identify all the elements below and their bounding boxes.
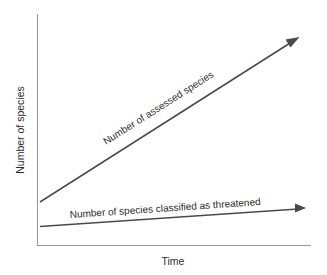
assessed-species-arrow-icon [286,37,300,48]
x-axis-title: Time [162,255,185,267]
threatened-species-label: Number of species classified as threaten… [69,196,261,220]
conceptual-line-chart: Number of assessed species Number of spe… [0,0,327,275]
assessed-species-line [40,42,293,203]
assessed-species-label: Number of assessed species [101,69,215,147]
figure-container: Number of assessed species Number of spe… [0,0,327,275]
y-axis-title: Number of species [14,86,26,174]
series-assessed-species: Number of assessed species [40,37,300,202]
threatened-species-arrow-icon [295,204,306,213]
series-threatened-species: Number of species classified as threaten… [40,196,306,226]
